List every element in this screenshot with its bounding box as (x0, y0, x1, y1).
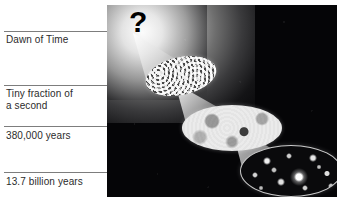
cosmic-timeline-figure: Dawn of Time Tiny fraction of a second 3… (0, 0, 343, 209)
label-tiny-fraction-of-a-second: Tiny fraction of a second (6, 88, 73, 111)
label-380000-years: 380,000 years (6, 130, 71, 142)
label-dawn-of-time: Dawn of Time (6, 34, 68, 46)
universe-panel: ? (107, 5, 337, 197)
galaxies-oval (240, 145, 337, 197)
question-mark-icon: ? (129, 7, 147, 37)
cosmic-microwave-background-oval (182, 105, 282, 151)
label-13-7-billion-years: 13.7 billion years (6, 176, 83, 188)
